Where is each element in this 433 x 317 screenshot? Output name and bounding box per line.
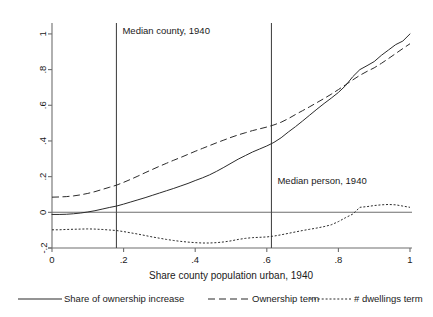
series-share-of-ownership-increase <box>52 34 410 215</box>
legend-item-dwellings-term: # dwellings term <box>354 293 423 304</box>
x-tick-label: .2 <box>120 254 128 265</box>
y-tick-label: 1 <box>38 31 49 36</box>
chart-figure: -.20.2.4.6.810.2.4.6.81Share county popu… <box>0 0 433 317</box>
x-tick-label: 1 <box>407 254 412 265</box>
annotation-label-median-county: Median county, 1940 <box>122 25 210 36</box>
y-tick-label: .6 <box>38 101 49 109</box>
series-dwellings-term <box>52 204 410 243</box>
y-tick-label: .2 <box>38 173 49 181</box>
y-tick-label: .4 <box>38 137 49 145</box>
x-tick-label: .8 <box>334 254 342 265</box>
annotation-label-median-person: Median person, 1940 <box>277 175 366 186</box>
chart-legend: Share of ownership increaseOwnership ter… <box>18 293 423 304</box>
data-series <box>52 34 410 243</box>
axis-tick-labels: -.20.2.4.6.810.2.4.6.81Share county popu… <box>38 31 413 281</box>
x-axis-title: Share county population urban, 1940 <box>149 270 313 281</box>
x-tick-label: 0 <box>49 254 54 265</box>
annotations: Median county, 1940Median person, 1940 <box>122 25 366 186</box>
y-tick-label: -.2 <box>38 242 49 253</box>
x-tick-label: .4 <box>191 254 199 265</box>
legend-item-ownership-term: Ownership term <box>252 293 319 304</box>
reference-lines <box>116 23 271 248</box>
y-tick-label: 0 <box>38 210 49 215</box>
x-tick-label: .6 <box>263 254 271 265</box>
chart-canvas: -.20.2.4.6.810.2.4.6.81Share county popu… <box>0 0 433 317</box>
legend-item-share-of-ownership-increase: Share of ownership increase <box>64 293 184 304</box>
y-tick-label: .8 <box>38 66 49 74</box>
